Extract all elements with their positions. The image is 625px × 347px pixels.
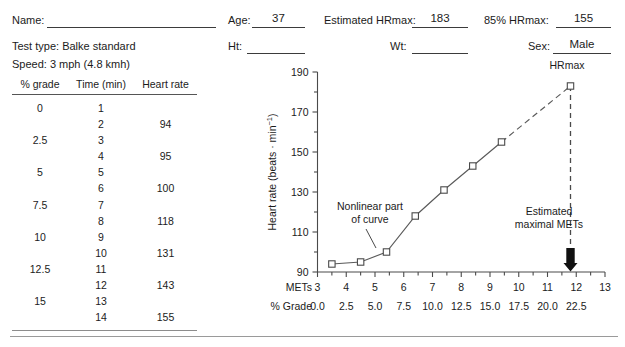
data-point-marker	[329, 261, 335, 267]
table-cell: 2	[68, 116, 134, 132]
grade-axis-tick-labels: 0.02.55.07.510.012.515.017.520.022.5	[310, 300, 586, 312]
annotation-mets-line1: Estimated	[526, 205, 573, 217]
age-value: 37	[252, 12, 305, 24]
extrapolation-line	[502, 86, 571, 142]
x-tick-label: 3	[315, 281, 321, 293]
exercise-test-table: % grade Time (min) Heart rate 012942.534…	[12, 78, 197, 331]
data-point-marker	[412, 213, 418, 219]
annotation-nonlinear-part: Nonlinear part of curve	[337, 200, 403, 248]
table-cell	[12, 116, 68, 132]
page-bottom-divider	[10, 336, 618, 337]
grade-tick-label: 5.0	[368, 300, 383, 312]
table-cell: 1	[68, 100, 134, 116]
table-cell: 155	[134, 309, 197, 325]
pct85-hrmax-value: 155	[556, 12, 611, 24]
table-row: 8118	[12, 213, 197, 229]
table-cell: 131	[134, 245, 197, 261]
x-tick-label: 10	[513, 281, 525, 293]
y-axis-tick-labels: 90110130150170190	[291, 66, 309, 278]
table-cell: 9	[68, 229, 134, 245]
y-tick-label: 110	[292, 226, 309, 238]
sex-field-underline[interactable]	[553, 53, 611, 54]
table-cell: 5	[12, 164, 68, 180]
ht-label: Ht:	[228, 40, 242, 52]
table-header-row: % grade Time (min) Heart rate	[12, 78, 197, 90]
table-cell	[134, 293, 197, 309]
name-field-underline[interactable]	[47, 27, 216, 28]
name-label: Name:	[12, 14, 44, 26]
column-header-heart-rate: Heart rate	[134, 78, 197, 90]
table-cell	[12, 213, 68, 229]
y-axis-title-main: Heart rate (beats · min	[266, 125, 278, 230]
table-row: 294	[12, 116, 197, 132]
grade-tick-label: 20.0	[537, 300, 558, 312]
annotation-hrmax-line2: HRmax	[549, 60, 585, 71]
table-row: 7.57	[12, 197, 197, 213]
y-tick-label: 90	[297, 266, 309, 278]
table-cell	[12, 309, 68, 325]
y-axis-title-superscript: −1	[265, 117, 274, 126]
data-point-marker	[498, 139, 504, 145]
test-type-text: Test type: Balke standard	[12, 40, 136, 52]
x-tick-label: 8	[458, 281, 464, 293]
table-cell: 15	[12, 293, 68, 309]
pct85-hrmax-underline[interactable]	[556, 27, 611, 28]
x-tick-label: 7	[430, 281, 436, 293]
table-cell	[134, 229, 197, 245]
table-cell	[134, 132, 197, 148]
sex-label: Sex:	[528, 40, 550, 52]
y-axis-title: Heart rate (beats · min−1)	[265, 113, 278, 230]
chart-svg: 90110130150170190 345678910111213 0.02.5…	[262, 60, 614, 330]
y-axis-title-paren: )	[266, 113, 278, 117]
table-row: 55	[12, 164, 197, 180]
table-cell: 13	[68, 293, 134, 309]
grade-tick-label: 10.0	[422, 300, 443, 312]
wt-field-underline[interactable]	[412, 53, 468, 54]
grade-tick-label: 17.5	[509, 300, 530, 312]
table-cell: 0	[12, 100, 68, 116]
x-axis-title-mets: METs	[286, 281, 312, 293]
table-cell: 4	[68, 148, 134, 164]
table-cell: 5	[68, 164, 134, 180]
x-tick-label: 12	[570, 281, 582, 293]
table-cell: 3	[68, 132, 134, 148]
table-row: 1513	[12, 293, 197, 309]
table-cell: 7.5	[12, 197, 68, 213]
x-tick-label: 4	[343, 281, 349, 293]
column-header-grade: % grade	[12, 78, 68, 90]
table-row: 10131	[12, 245, 197, 261]
x-tick-label: 13	[599, 281, 611, 293]
data-point-marker	[567, 83, 573, 89]
annotation-mets-line2: maximal METs	[515, 218, 583, 230]
age-field-underline[interactable]	[252, 27, 305, 28]
ht-field-underline[interactable]	[247, 53, 305, 54]
y-tick-label: 150	[291, 146, 309, 158]
grade-tick-label: 22.5	[566, 300, 587, 312]
table-cell: 8	[68, 213, 134, 229]
column-header-time: Time (min)	[68, 78, 134, 90]
y-tick-label: 190	[291, 66, 309, 78]
table-header-divider	[12, 94, 197, 95]
y-tick-label: 170	[291, 106, 309, 118]
wt-label: Wt:	[390, 40, 407, 52]
x-axis: 345678910111213 0.02.55.07.510.012.515.0…	[310, 272, 611, 312]
y-tick-label: 130	[291, 186, 309, 198]
estimated-hrmax-value: 183	[412, 12, 468, 24]
table-row: 01	[12, 100, 197, 116]
annotation-estimated-maximal-mets: Estimated maximal METs	[515, 205, 583, 230]
table-body: 012942.534955561007.5781181091013112.511…	[12, 100, 197, 325]
x-tick-label: 5	[372, 281, 378, 293]
table-row: 109	[12, 229, 197, 245]
data-point-marker	[383, 249, 389, 255]
table-cell: 10	[12, 229, 68, 245]
table-cell: 143	[134, 277, 197, 293]
table-row: 14155	[12, 309, 197, 325]
grade-tick-label: 12.5	[451, 300, 472, 312]
table-row: 2.53	[12, 132, 197, 148]
estimated-hrmax-underline[interactable]	[412, 27, 468, 28]
x-tick-label: 9	[487, 281, 493, 293]
x-axis-title-grade: % Grade	[271, 300, 313, 312]
x-axis-tick-labels: 345678910111213	[315, 281, 611, 293]
table-cell	[134, 100, 197, 116]
sex-value: Male	[553, 38, 611, 50]
